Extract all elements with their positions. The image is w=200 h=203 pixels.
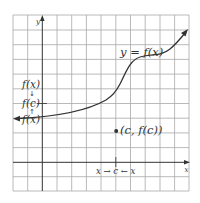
y-label-bottom: f(x) <box>21 113 40 125</box>
x-approach-label: x → c ← x <box>96 166 136 176</box>
y-label-top: f(x) <box>21 78 40 90</box>
point-c-fc <box>114 129 118 133</box>
point-label: (c, f(c)) <box>120 123 162 137</box>
curve-label: y = f(x) <box>119 45 163 59</box>
x-axis-label: x <box>185 166 189 174</box>
y-axis-label: y <box>35 18 41 26</box>
function-graph: y x y = f(x) (c, f(c)) f(x) ↓ f(c) ↑ f(x… <box>0 0 200 203</box>
curve-left-arrow-icon <box>13 116 20 122</box>
y-axis-arrow-icon <box>40 15 45 21</box>
